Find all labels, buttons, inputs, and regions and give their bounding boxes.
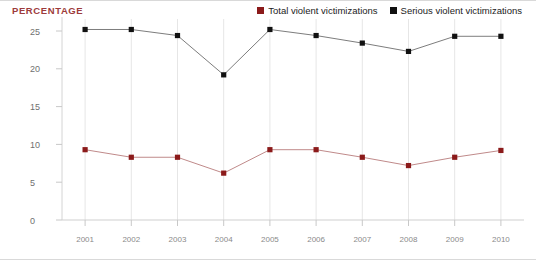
data-point-marker[interactable] bbox=[175, 155, 180, 160]
data-point-marker[interactable] bbox=[314, 33, 319, 38]
y-tick-label: 5 bbox=[30, 178, 35, 188]
data-point-marker[interactable] bbox=[406, 163, 411, 168]
data-point-marker[interactable] bbox=[360, 155, 365, 160]
data-point-marker[interactable] bbox=[498, 148, 503, 153]
chart-container: PERCENTAGE Total violent victimizations … bbox=[0, 0, 536, 260]
data-point-marker[interactable] bbox=[221, 171, 226, 176]
x-tick-label: 2010 bbox=[492, 235, 510, 244]
y-tick-label: 25 bbox=[30, 27, 40, 37]
x-tick-label: 2006 bbox=[307, 235, 325, 244]
x-tick-label: 2007 bbox=[353, 235, 371, 244]
plot-area: 0510152025200120022003200420052006200720… bbox=[0, 0, 536, 260]
data-point-marker[interactable] bbox=[314, 147, 319, 152]
y-tick-label: 20 bbox=[30, 64, 40, 74]
data-point-marker[interactable] bbox=[221, 72, 226, 77]
x-tick-label: 2009 bbox=[446, 235, 464, 244]
data-point-marker[interactable] bbox=[452, 34, 457, 39]
data-point-marker[interactable] bbox=[129, 27, 134, 32]
data-point-marker[interactable] bbox=[498, 34, 503, 39]
chart-svg: 0510152025200120022003200420052006200720… bbox=[0, 0, 536, 260]
x-tick-label: 2005 bbox=[261, 235, 279, 244]
x-tick-label: 2002 bbox=[122, 235, 140, 244]
data-point-marker[interactable] bbox=[360, 40, 365, 45]
y-tick-label: 0 bbox=[30, 216, 35, 226]
y-tick-label: 15 bbox=[30, 102, 40, 112]
x-tick-label: 2008 bbox=[400, 235, 418, 244]
data-point-marker[interactable] bbox=[452, 155, 457, 160]
data-point-marker[interactable] bbox=[129, 155, 134, 160]
data-point-marker[interactable] bbox=[406, 49, 411, 54]
x-tick-label: 2003 bbox=[169, 235, 187, 244]
data-point-marker[interactable] bbox=[267, 147, 272, 152]
series-line bbox=[85, 29, 501, 74]
data-point-marker[interactable] bbox=[83, 147, 88, 152]
series-line bbox=[85, 150, 501, 173]
data-point-marker[interactable] bbox=[267, 27, 272, 32]
x-tick-label: 2004 bbox=[215, 235, 233, 244]
data-point-marker[interactable] bbox=[175, 33, 180, 38]
data-point-marker[interactable] bbox=[83, 27, 88, 32]
x-tick-label: 2001 bbox=[76, 235, 94, 244]
y-tick-label: 10 bbox=[30, 140, 40, 150]
